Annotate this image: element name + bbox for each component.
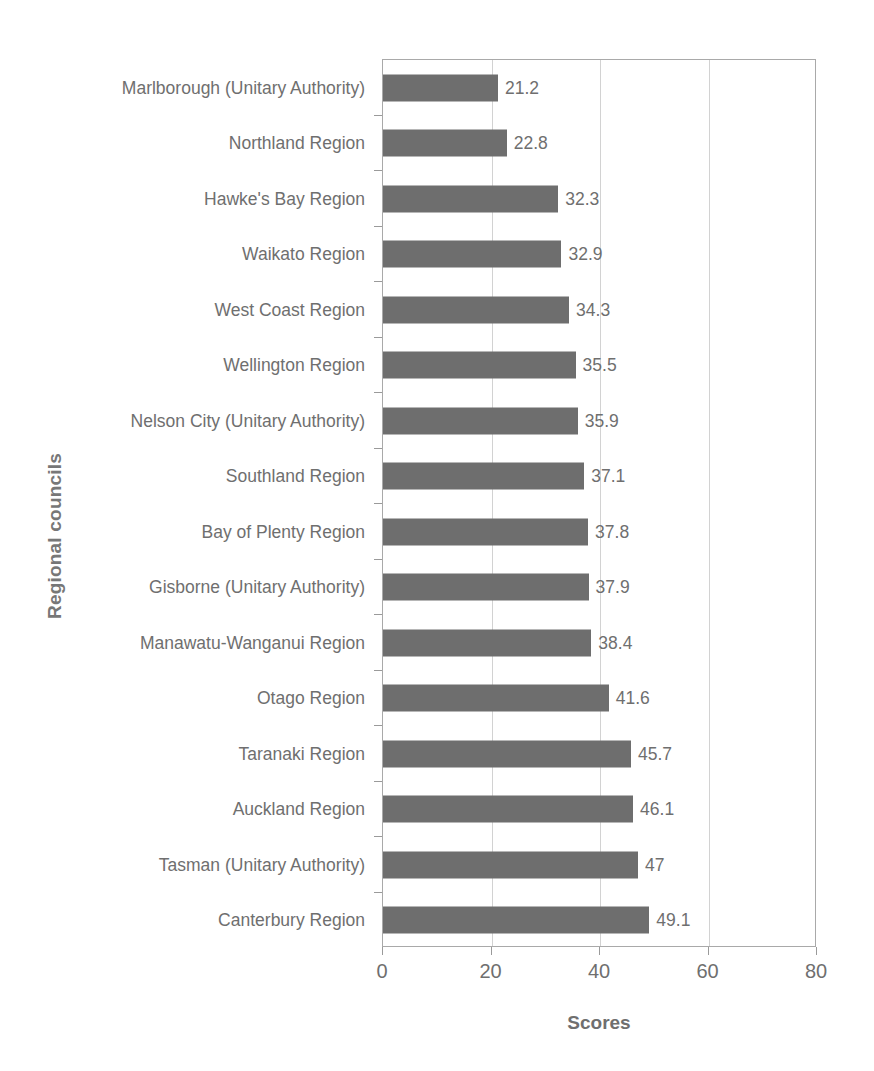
category-label: Northland Region (229, 133, 365, 154)
y-axis-tick (374, 337, 382, 338)
category-label: Gisborne (Unitary Authority) (149, 577, 365, 598)
category-label: Hawke's Bay Region (204, 188, 365, 209)
bar-value-label: 45.7 (638, 743, 672, 764)
y-axis-tick (374, 670, 382, 671)
y-axis-tick (374, 781, 382, 782)
y-axis-tick (374, 559, 382, 560)
category-label: Nelson City (Unitary Authority) (131, 410, 365, 431)
y-axis-tick (374, 503, 382, 504)
category-label: Southland Region (226, 466, 365, 487)
y-axis-tick (374, 892, 382, 893)
x-axis-tick-0 (382, 947, 383, 955)
category-label: Manawatu-Wanganui Region (140, 632, 365, 653)
x-axis-tick-label: 40 (588, 960, 610, 983)
category-label: Otago Region (257, 688, 365, 709)
y-axis-tick (374, 115, 382, 116)
bar (383, 185, 558, 212)
bar (383, 574, 589, 601)
bar-value-label: 37.9 (596, 577, 630, 598)
bar-value-label: 47 (645, 854, 664, 875)
x-axis-tick-60 (708, 947, 709, 955)
bar-value-label: 32.3 (565, 188, 599, 209)
x-axis-tick-label: 0 (376, 960, 387, 983)
bar (383, 296, 569, 323)
category-label: Waikato Region (242, 244, 365, 265)
bar (383, 629, 591, 656)
bar (383, 907, 649, 934)
bar-value-label: 38.4 (598, 632, 632, 653)
y-axis-tick (374, 725, 382, 726)
category-axis-labels: Marlborough (Unitary Authority)Northland… (70, 60, 375, 947)
bar-value-label: 41.6 (616, 688, 650, 709)
bar (383, 518, 588, 545)
y-axis-tick (374, 281, 382, 282)
category-label: Auckland Region (233, 799, 365, 820)
x-axis-tick-label: 60 (696, 960, 718, 983)
bar-value-label: 49.1 (656, 910, 690, 931)
gridline-60 (709, 60, 710, 946)
y-axis-tick (374, 392, 382, 393)
bar (383, 74, 498, 101)
category-label: Taranaki Region (239, 743, 365, 764)
bar-value-label: 37.8 (595, 521, 629, 542)
plot-area: 21.222.832.332.934.335.535.937.137.837.9… (382, 59, 816, 947)
x-axis-tick-20 (491, 947, 492, 955)
category-label: Canterbury Region (218, 910, 365, 931)
x-axis-tick-label: 20 (479, 960, 501, 983)
y-axis-tick (374, 448, 382, 449)
bar-value-label: 21.2 (505, 77, 539, 98)
y-axis-tick (374, 614, 382, 615)
x-axis-title: Scores (382, 1012, 816, 1034)
y-axis-tick (374, 170, 382, 171)
bar (383, 352, 576, 379)
bar (383, 796, 633, 823)
bar (383, 241, 561, 268)
x-axis-tick-80 (816, 947, 817, 955)
y-axis-title-text: Regional councils (44, 453, 66, 619)
bar (383, 685, 609, 712)
category-label: Marlborough (Unitary Authority) (122, 77, 365, 98)
bar-value-label: 46.1 (640, 799, 674, 820)
bar-value-label: 35.9 (585, 410, 619, 431)
chart-page: Regional councils Marlborough (Unitary A… (0, 0, 874, 1071)
bar-value-label: 37.1 (591, 466, 625, 487)
bar (383, 407, 578, 434)
category-label: Bay of Plenty Region (202, 521, 365, 542)
category-label: Tasman (Unitary Authority) (159, 854, 365, 875)
x-axis-tick-label: 80 (805, 960, 827, 983)
bar (383, 851, 638, 878)
bar-value-label: 32.9 (568, 244, 602, 265)
bar (383, 130, 507, 157)
category-label: West Coast Region (215, 299, 365, 320)
bar-value-label: 35.5 (583, 355, 617, 376)
bar-value-label: 22.8 (514, 133, 548, 154)
y-axis-tick (374, 226, 382, 227)
category-label: Wellington Region (223, 355, 365, 376)
bar-value-label: 34.3 (576, 299, 610, 320)
bar (383, 463, 584, 490)
x-axis-tick-40 (599, 947, 600, 955)
y-axis-tick (374, 836, 382, 837)
bar (383, 740, 631, 767)
